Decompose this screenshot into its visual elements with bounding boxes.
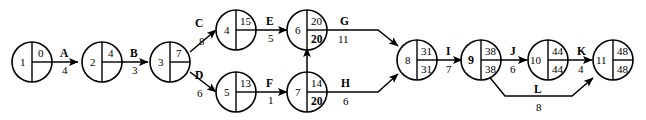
node-1[interactable] bbox=[12, 42, 52, 82]
activity-G-duration: 11 bbox=[338, 34, 349, 45]
node-2-id: 2 bbox=[90, 57, 96, 68]
activity-A-duration: 4 bbox=[62, 65, 68, 76]
node-6-late: 20 bbox=[311, 34, 323, 46]
node-2[interactable] bbox=[82, 42, 122, 82]
node-5-early: 13 bbox=[240, 78, 251, 89]
activity-J-label: J bbox=[510, 46, 516, 58]
activity-H-label: H bbox=[341, 78, 350, 90]
node-5-id: 5 bbox=[224, 87, 230, 98]
node-11-late: 48 bbox=[617, 64, 628, 75]
activity-B-label: B bbox=[130, 48, 138, 60]
node-6-early: 20 bbox=[311, 16, 322, 27]
node-3-early: 7 bbox=[176, 48, 182, 59]
node-10-early: 44 bbox=[552, 46, 563, 57]
activity-H-duration: 6 bbox=[343, 96, 349, 107]
activity-L-label: L bbox=[534, 84, 542, 96]
node-9-id: 9 bbox=[468, 54, 474, 66]
activity-D-label: D bbox=[195, 70, 203, 82]
node-4-early: 15 bbox=[240, 16, 251, 27]
network-diagram-canvas: 1 0 2 4 3 7 4 15 5 13 6 20 20 7 14 20 8 … bbox=[0, 0, 646, 120]
activity-K-label: K bbox=[577, 46, 586, 58]
activity-G-label: G bbox=[340, 16, 349, 28]
node-7-early: 14 bbox=[311, 78, 322, 89]
activity-J-duration: 6 bbox=[510, 64, 516, 75]
node-7-id: 7 bbox=[295, 87, 301, 98]
activity-D-duration: 6 bbox=[197, 88, 203, 99]
activity-E-duration: 5 bbox=[268, 33, 274, 44]
node-8-early: 31 bbox=[421, 46, 432, 57]
node-7-late: 20 bbox=[311, 96, 323, 108]
node-3-id: 3 bbox=[158, 57, 164, 68]
edge-H bbox=[327, 74, 398, 92]
node-11-id: 11 bbox=[596, 55, 607, 66]
node-10-id: 10 bbox=[530, 55, 541, 66]
activity-L-duration: 8 bbox=[536, 102, 542, 113]
node-2-early: 4 bbox=[108, 48, 114, 59]
activity-E-label: E bbox=[266, 16, 274, 28]
activity-I-label: I bbox=[446, 46, 450, 58]
node-8-late: 31 bbox=[421, 64, 432, 75]
activity-F-label: F bbox=[266, 78, 273, 90]
network-diagram-svg bbox=[0, 0, 646, 120]
node-9-late: 38 bbox=[485, 64, 496, 75]
node-1-early: 0 bbox=[38, 48, 44, 59]
node-3[interactable] bbox=[150, 42, 190, 82]
activity-C-duration: 8 bbox=[199, 36, 205, 47]
activity-B-duration: 3 bbox=[132, 65, 138, 76]
node-4-id: 4 bbox=[224, 25, 230, 36]
node-9-early: 38 bbox=[485, 46, 496, 57]
activity-F-duration: 1 bbox=[268, 95, 274, 106]
node-1-id: 1 bbox=[20, 57, 26, 68]
activity-A-label: A bbox=[60, 48, 68, 60]
node-6-id: 6 bbox=[295, 25, 301, 36]
node-10-late: 44 bbox=[552, 64, 563, 75]
node-11-early: 48 bbox=[617, 46, 628, 57]
activity-K-duration: 4 bbox=[578, 64, 584, 75]
activity-C-label: C bbox=[195, 18, 203, 30]
activity-I-duration: 7 bbox=[446, 64, 452, 75]
node-8-id: 8 bbox=[405, 55, 411, 66]
